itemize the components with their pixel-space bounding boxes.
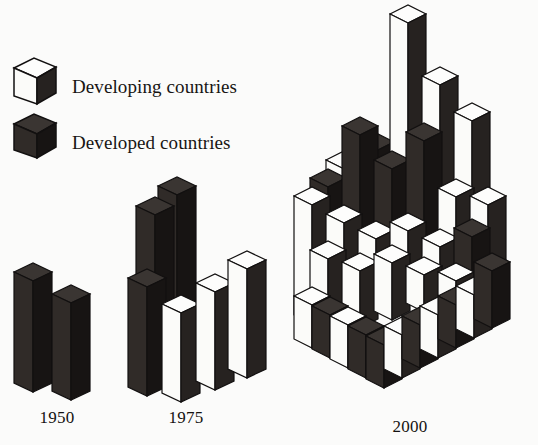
year-label-1950: 1950 bbox=[39, 408, 74, 427]
bar-2000-r4-c3 bbox=[374, 245, 410, 320]
bar-1975-developing-3 bbox=[228, 251, 266, 378]
year-label-1975: 1975 bbox=[168, 408, 203, 427]
bar-1950-developed-1 bbox=[14, 263, 52, 392]
legend-label-developing: Developing countries bbox=[72, 76, 237, 97]
isometric-bar-chart: Developing countries Developed countries bbox=[0, 0, 538, 445]
bar-1975-developed-3 bbox=[128, 269, 166, 396]
bar-1950-developed-2 bbox=[52, 285, 90, 400]
year-label-2000: 2000 bbox=[392, 417, 427, 436]
bar-1975-developing-1 bbox=[162, 295, 200, 402]
bar-2000-r5-c11 bbox=[474, 253, 510, 328]
dark-cube-icon bbox=[14, 114, 56, 158]
chart-canvas: Developing countries Developed countries bbox=[0, 0, 538, 445]
white-cube-icon bbox=[14, 58, 56, 104]
legend-label-developed: Developed countries bbox=[72, 132, 231, 153]
